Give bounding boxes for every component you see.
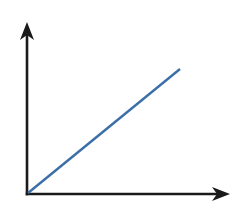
- linear-line: [28, 69, 180, 193]
- line-graph-diagram: [0, 0, 242, 207]
